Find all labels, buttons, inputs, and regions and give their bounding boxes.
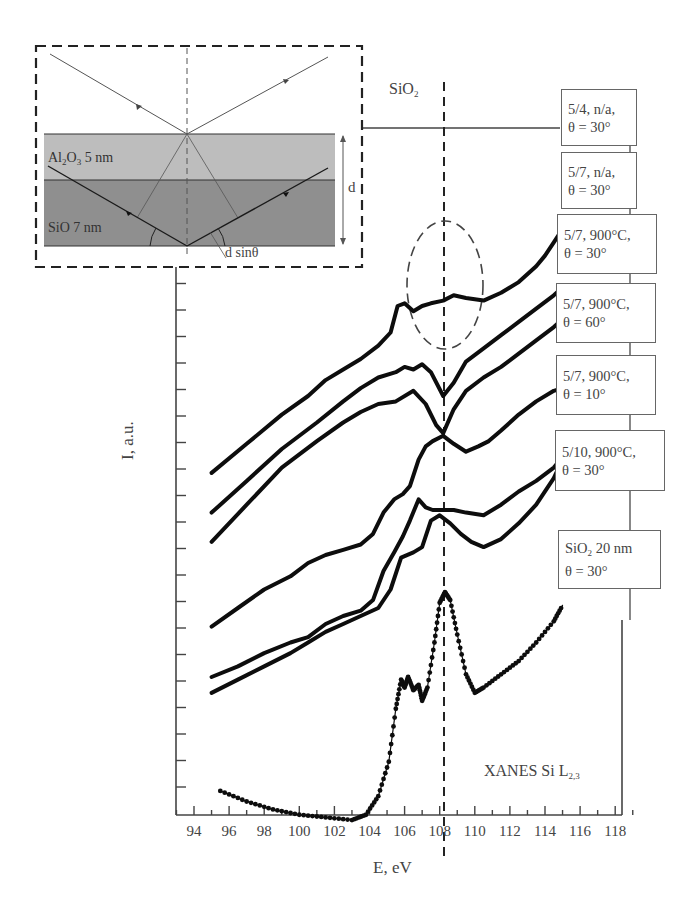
- legend-box-5-7-na-30: 5/7, n/a,θ = 30°: [561, 152, 637, 209]
- sio-layer: [44, 180, 335, 246]
- x-tick-label: 116: [569, 823, 591, 840]
- sio2-reference-label: SiO2: [389, 80, 418, 99]
- spectrum-line: [212, 388, 563, 626]
- spectrum-line: [212, 460, 563, 693]
- legend-box-5-10-900-30: 5/10, 900°C,θ = 30°: [555, 430, 665, 491]
- x-tick-label: 96: [222, 823, 237, 840]
- x-tick-label: 104: [358, 823, 381, 840]
- legend-box-5-7-900-10: 5/7, 900°C,θ = 10°: [556, 355, 656, 415]
- spectrum-line: [220, 592, 562, 820]
- x-tick-label: 100: [288, 823, 311, 840]
- x-axis-ticks: [176, 806, 632, 815]
- chart-title-label: XANES Si L2,3: [484, 762, 580, 781]
- x-tick-label: 108: [428, 823, 451, 840]
- x-tick-label: 118: [604, 823, 626, 840]
- legend-box-5-7-900-30: 5/7, 900°C,θ = 30°: [557, 214, 657, 274]
- spectrum-line: [212, 287, 563, 512]
- x-tick-label: 106: [393, 823, 416, 840]
- x-tick-label: 102: [323, 823, 346, 840]
- y-axis-title: I, a.u.: [118, 421, 138, 460]
- legend-box-sio2-20nm-30: SiO2 20 nm θ = 30°: [558, 530, 661, 589]
- x-tick-label: 114: [534, 823, 556, 840]
- x-tick-label: 94: [187, 823, 202, 840]
- sio-layer-label: SiO 7 nm: [48, 220, 102, 236]
- legend-box-5-7-900-60: 5/7, 900°C,θ = 60°: [556, 283, 656, 343]
- spectra-curves: [212, 229, 564, 822]
- x-tick-label: 112: [499, 823, 521, 840]
- x-tick-label: 110: [464, 823, 486, 840]
- x-axis-title: E, eV: [373, 858, 412, 878]
- thickness-label: d: [348, 179, 356, 196]
- path-length-label: d sinθ: [225, 245, 259, 261]
- x-tick-label: 98: [257, 823, 272, 840]
- al2o3-layer-label: Al2O3 5 nm: [48, 150, 113, 167]
- spectrum-line: [212, 457, 563, 677]
- legend-box-5-4-na-30: 5/4, n/a,θ = 30°: [561, 89, 637, 146]
- y-axis-ticks: [176, 284, 186, 788]
